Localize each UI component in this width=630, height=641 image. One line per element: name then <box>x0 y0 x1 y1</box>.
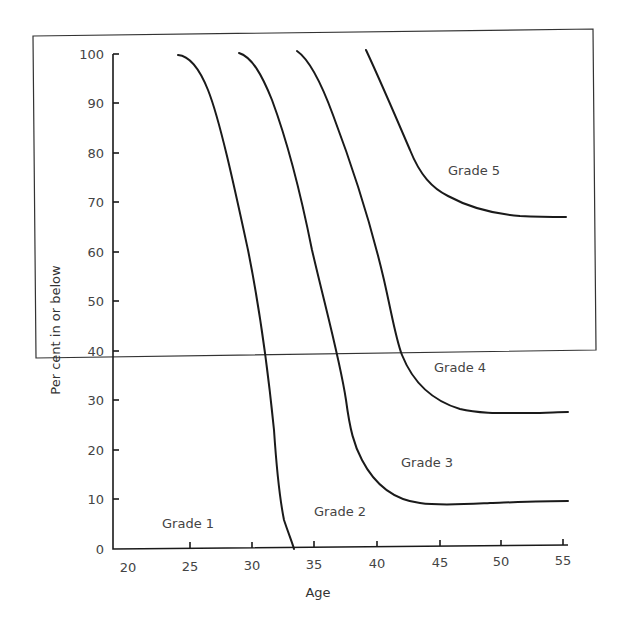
y-tick-40: 40 <box>87 344 104 359</box>
curve-grade1-boundary <box>178 55 294 549</box>
x-tick-55: 55 <box>555 553 572 568</box>
curve-grade2-boundary <box>239 53 568 505</box>
y-axis-tick-labels: 0 10 20 30 40 50 60 70 80 90 100 <box>79 47 104 557</box>
y-tick-100: 100 <box>79 47 104 62</box>
y-tick-90: 90 <box>87 96 104 111</box>
label-grade5: Grade 5 <box>448 163 500 178</box>
x-axis-ticks <box>190 539 563 548</box>
chart: 0 10 20 30 40 50 60 70 80 90 100 20 25 3… <box>0 0 630 641</box>
x-axis-label: Age <box>305 585 330 600</box>
x-tick-40: 40 <box>369 556 386 571</box>
y-tick-10: 10 <box>87 492 104 507</box>
y-tick-80: 80 <box>87 146 104 161</box>
axes <box>113 54 568 549</box>
y-tick-20: 20 <box>87 443 104 458</box>
curve-grade4-boundary <box>366 50 566 217</box>
x-axis-tick-labels: 20 25 30 35 40 45 50 55 <box>120 553 572 575</box>
y-tick-70: 70 <box>87 195 104 210</box>
x-tick-30: 30 <box>244 558 261 573</box>
x-tick-50: 50 <box>493 554 510 569</box>
y-tick-30: 30 <box>87 393 104 408</box>
x-tick-25: 25 <box>182 559 199 574</box>
x-tick-35: 35 <box>306 557 323 572</box>
label-grade4: Grade 4 <box>434 360 486 375</box>
label-grade2: Grade 2 <box>314 504 366 519</box>
y-tick-50: 50 <box>87 294 104 309</box>
label-grade1: Grade 1 <box>162 516 214 531</box>
x-tick-20: 20 <box>120 560 137 575</box>
y-axis-label: Per cent in or below <box>48 265 63 395</box>
y-tick-0: 0 <box>96 542 104 557</box>
x-tick-45: 45 <box>432 555 449 570</box>
label-grade3: Grade 3 <box>401 455 453 470</box>
chart-frame <box>33 29 596 358</box>
y-tick-60: 60 <box>87 245 104 260</box>
y-axis-ticks <box>113 54 119 499</box>
